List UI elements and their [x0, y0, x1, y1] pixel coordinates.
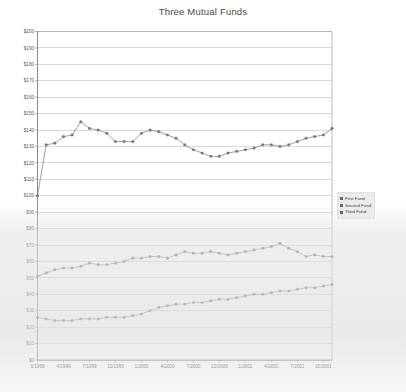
series-data-point [36, 275, 39, 278]
series-line-1 [38, 122, 333, 196]
y-axis-tick-label: $0 [29, 358, 35, 363]
series-data-point [114, 262, 117, 265]
series-data-point [209, 155, 212, 158]
y-axis-tick-label: $40 [26, 292, 34, 297]
x-axis-tick-label: 7/2001 [290, 364, 304, 369]
x-axis-tick-label: 4/1999 [56, 364, 70, 369]
series-data-point [218, 298, 221, 301]
series-data-point [97, 318, 100, 321]
series-data-point [209, 300, 212, 303]
series-data-point [287, 143, 290, 146]
series-data-point [287, 247, 290, 250]
x-axis-tick-label: 1/2000 [134, 364, 148, 369]
series-data-point [253, 293, 256, 296]
series-data-point [88, 262, 91, 265]
series-data-point [279, 290, 282, 293]
series-data-point [218, 155, 221, 158]
x-axis-tick-label: 10/2000 [211, 364, 228, 369]
legend-item-second-fund[interactable]: Second Fund [340, 202, 371, 209]
legend-swatch-icon [340, 204, 343, 207]
y-axis-tick-label: $10 [26, 341, 34, 346]
series-data-point [105, 263, 108, 266]
y-axis-tick-label: $90 [26, 210, 34, 215]
x-axis-tick-label: 1/1999 [30, 364, 44, 369]
series-data-point [305, 255, 308, 258]
series-data-point [279, 242, 282, 245]
legend-label: Third Fund [345, 209, 366, 215]
series-data-point [270, 245, 273, 248]
y-axis-tick-label: $70 [26, 243, 34, 248]
series-data-point [331, 255, 334, 258]
series-data-point [209, 250, 212, 253]
series-data-point [123, 316, 126, 319]
series-data-point [140, 257, 143, 260]
series-data-point [227, 152, 230, 155]
series-data-point [97, 129, 100, 132]
chart-legend: First Fund Second Fund Third Fund [337, 192, 375, 219]
series-data-point [192, 252, 195, 255]
series-data-point [331, 127, 334, 130]
series-data-point [45, 318, 48, 321]
x-axis-tick-label: 4/2000 [160, 364, 174, 369]
series-data-point [123, 260, 126, 263]
series-data-point [235, 150, 238, 153]
series-data-point [79, 318, 82, 321]
series-data-point [36, 194, 39, 197]
series-data-point [149, 309, 152, 312]
y-axis-tick-label: $130 [24, 144, 35, 149]
series-data-point [53, 319, 56, 322]
y-axis-tick-label: $190 [24, 46, 35, 51]
series-data-point [105, 316, 108, 319]
series-data-point [322, 134, 325, 137]
series-data-point [97, 263, 100, 266]
series-data-point [105, 132, 108, 135]
legend-item-first-fund[interactable]: First Fund [340, 195, 371, 202]
x-axis-tick-label: 1/2001 [238, 364, 252, 369]
series-data-point [166, 134, 169, 137]
series-data-point [149, 255, 152, 258]
series-data-point [62, 135, 65, 138]
series-data-point [296, 250, 299, 253]
series-data-point [157, 306, 160, 309]
y-axis-tick-label: $120 [24, 161, 35, 166]
series-data-point [244, 148, 247, 151]
series-data-point [296, 140, 299, 143]
series-data-point [313, 254, 316, 257]
series-data-point [227, 254, 230, 257]
y-axis-tick-label: $30 [26, 308, 34, 313]
series-data-point [305, 286, 308, 289]
legend-swatch-icon [340, 197, 343, 200]
series-data-point [235, 296, 238, 299]
x-axis-tick-label: 7/1999 [82, 364, 96, 369]
y-axis-tick-label: $180 [24, 62, 35, 67]
series-data-point [227, 298, 230, 301]
series-data-point [45, 143, 48, 146]
y-axis-tick-label: $150 [24, 111, 35, 116]
y-axis-tick-label: $100 [24, 193, 35, 198]
x-axis-tick-label: 7/2000 [186, 364, 200, 369]
legend-item-third-fund[interactable]: Third Fund [340, 209, 371, 216]
series-data-point [201, 301, 204, 304]
series-data-point [149, 129, 152, 132]
series-data-point [296, 288, 299, 291]
series-data-point [279, 145, 282, 148]
series-data-point [62, 319, 65, 322]
y-axis-tick-label: $140 [24, 128, 35, 133]
series-data-point [253, 147, 256, 150]
y-axis-tick-label: $160 [24, 95, 35, 100]
series-data-point [140, 132, 143, 135]
y-axis-tick-label: $60 [26, 259, 34, 264]
series-data-point [261, 247, 264, 250]
series-data-point [183, 250, 186, 253]
y-axis-tick-label: $200 [24, 29, 35, 34]
series-data-point [183, 143, 186, 146]
series-data-point [235, 252, 238, 255]
series-data-point [79, 265, 82, 268]
series-data-point [244, 250, 247, 253]
series-data-point [71, 267, 74, 270]
series-data-point [192, 148, 195, 151]
series-data-point [131, 140, 134, 143]
series-data-point [183, 303, 186, 306]
y-axis-tick-label: $80 [26, 226, 34, 231]
series-data-point [270, 143, 273, 146]
